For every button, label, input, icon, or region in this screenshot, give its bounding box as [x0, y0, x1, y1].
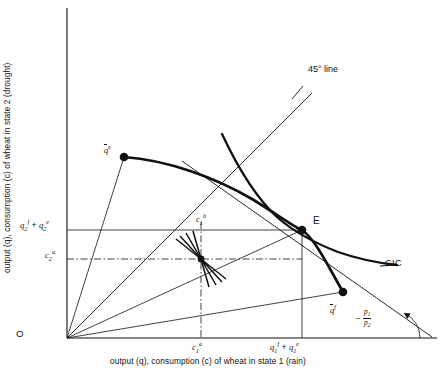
production-possibility-frontier-group	[124, 157, 343, 292]
equilibrium-point-label: E	[313, 215, 320, 226]
budget-line-group	[182, 161, 432, 338]
budget-line	[182, 161, 432, 337]
forty-five-degree-line-label: 45° line	[308, 64, 338, 74]
point-qbar-e-marker	[120, 153, 129, 162]
reference-lines-group	[67, 222, 302, 338]
x-axis-label: output (q), consumption (c) of wheat in …	[110, 356, 410, 366]
diagram-canvas	[0, 0, 445, 374]
origin-label: O	[16, 328, 23, 339]
cic-label: CIC	[385, 258, 402, 268]
ray-to-qbar-e	[67, 157, 124, 338]
y-axis-label: output (q), consumption (c) of wheat in …	[2, 73, 12, 273]
interior-label-c1b: c1b	[196, 212, 206, 226]
y-tick-label-total: q2f + q2e	[20, 218, 49, 232]
x-tick-label-consumption-a: c1a	[192, 340, 202, 354]
axes-group	[67, 8, 437, 338]
point-label-qbar-f: qf	[330, 303, 336, 315]
x-tick-label-total: q1f + q1e	[270, 340, 299, 354]
community-indifference-curve-group	[222, 134, 397, 266]
production-possibility-frontier	[124, 157, 343, 292]
point-label-qbar-e: qe	[104, 143, 111, 155]
economics-diagram: output (q), consumption (c) of wheat in …	[0, 0, 445, 374]
y-tick-label-consumption-a: c2a	[45, 248, 55, 262]
forty-five-leader-group	[292, 86, 303, 99]
point-allocation-a-center	[198, 256, 205, 263]
forty-five-leader-line	[292, 86, 303, 99]
point-qbar-f-marker	[339, 288, 348, 297]
point-equilibrium-marker	[298, 226, 307, 235]
community-indifference-curve	[222, 134, 397, 265]
slope-label-price-ratio: − p1 p2	[356, 308, 371, 329]
